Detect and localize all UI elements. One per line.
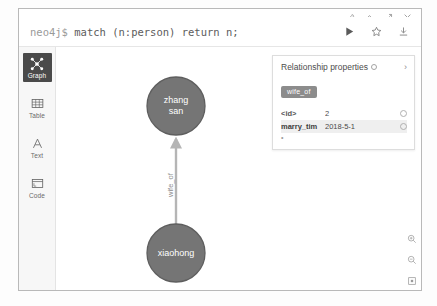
properties-more-indicator: • bbox=[281, 133, 407, 141]
copy-icon[interactable] bbox=[400, 110, 407, 117]
relationship-properties-panel: Relationship properties › wife_of <id> 2… bbox=[272, 55, 415, 150]
property-key: <id> bbox=[281, 108, 325, 119]
node-label-line: zhang bbox=[164, 95, 189, 105]
sidebar-item-code[interactable]: Code bbox=[23, 173, 52, 202]
graph-node-xiaohong[interactable]: xiaohong bbox=[147, 224, 205, 282]
query-prompt: neo4j$ bbox=[30, 26, 68, 38]
query-editor-bar: neo4j$ match (n:person) return n; bbox=[19, 17, 421, 47]
sidebar-item-table[interactable]: Table bbox=[23, 93, 52, 122]
property-row: <id> 2 bbox=[281, 107, 407, 120]
view-sidebar: Graph Table bbox=[19, 47, 56, 290]
sidebar-item-label: Table bbox=[29, 112, 45, 120]
zoom-fit-button[interactable] bbox=[406, 275, 417, 286]
neo4j-browser-window: neo4j$ match (n:person) return n; bbox=[18, 8, 422, 291]
chevron-right-icon[interactable]: › bbox=[400, 63, 407, 72]
query-text: match (n:person) return n; bbox=[74, 26, 238, 38]
property-value: 2018-5-1 bbox=[325, 121, 400, 132]
sidebar-item-label: Code bbox=[29, 192, 45, 200]
zoom-out-button[interactable] bbox=[406, 254, 417, 265]
property-value: 2 bbox=[325, 108, 400, 119]
relationship-label-text: wife_of bbox=[166, 172, 175, 198]
node-label-line: xiaohong bbox=[158, 248, 195, 258]
table-icon bbox=[30, 96, 45, 111]
run-query-button[interactable] bbox=[343, 26, 355, 38]
screenshot-root: neo4j$ match (n:person) return n; bbox=[0, 0, 437, 306]
result-body: Graph Table bbox=[19, 47, 421, 290]
copy-icon[interactable] bbox=[400, 123, 407, 130]
editor-actions bbox=[343, 26, 421, 38]
node-label-line: san bbox=[169, 106, 184, 116]
code-icon bbox=[30, 176, 45, 191]
properties-title-wrap: Relationship properties bbox=[281, 62, 377, 72]
zoom-in-button[interactable] bbox=[406, 233, 417, 244]
sidebar-item-label: Text bbox=[31, 152, 43, 160]
sidebar-item-label: Graph bbox=[28, 72, 47, 80]
download-button[interactable] bbox=[397, 26, 409, 38]
properties-panel-title: Relationship properties bbox=[281, 62, 368, 72]
graph-node-zhangsan[interactable]: zhang san bbox=[147, 77, 205, 135]
relationship-label: wife_of bbox=[166, 172, 175, 198]
text-icon bbox=[30, 136, 45, 151]
info-icon[interactable] bbox=[371, 64, 377, 70]
property-key: marry_tim bbox=[281, 121, 325, 132]
sidebar-item-graph[interactable]: Graph bbox=[23, 53, 52, 82]
property-row: marry_tim 2018-5-1 bbox=[281, 120, 407, 133]
graph-zoom-controls bbox=[403, 233, 420, 286]
query-input[interactable]: neo4j$ match (n:person) return n; bbox=[19, 26, 343, 38]
sidebar-item-text[interactable]: Text bbox=[23, 133, 52, 162]
favorite-button[interactable] bbox=[370, 26, 382, 38]
properties-panel-header: Relationship properties › bbox=[281, 62, 407, 72]
graph-icon bbox=[30, 56, 45, 71]
relationship-type-badge[interactable]: wife_of bbox=[281, 86, 317, 98]
graph-canvas[interactable]: wife_of zhang san xiaohong bbox=[56, 47, 421, 290]
